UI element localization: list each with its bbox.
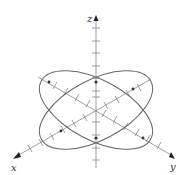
y-axis [38,77,171,155]
y-axis-arrow-icon [169,152,175,159]
x-axis-label: x [11,162,17,173]
point-upper-left [48,81,51,84]
point-top [94,80,97,83]
point-lower-right [142,137,145,140]
x-axis [17,79,151,156]
point-bottom [94,136,97,139]
point-lower-left [60,130,63,133]
diagram-canvas: z x [0,0,180,175]
y-axis-ticks [53,82,161,149]
y-axis-label: y [169,161,176,172]
z-axis [92,19,100,168]
z-axis-arrow-icon [94,15,99,21]
point-upper-right [132,88,135,91]
x-axis-arrow-icon [13,152,21,159]
z-axis-label: z [86,13,93,24]
